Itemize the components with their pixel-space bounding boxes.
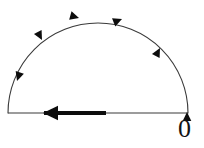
arrowhead-group: [13, 11, 191, 121]
arc-arrow-lower-right-icon: [152, 46, 164, 58]
origin-label: 0: [178, 116, 191, 142]
contour-figure-canvas: [0, 0, 204, 148]
semicircle-arc-path: [8, 23, 188, 113]
contour-diagram: 0: [0, 0, 204, 148]
axis-arrow-bold-left-icon: [43, 106, 58, 120]
arc-arrow-upper-left-icon: [34, 30, 46, 42]
arc-arrow-top-left-icon: [69, 11, 80, 22]
